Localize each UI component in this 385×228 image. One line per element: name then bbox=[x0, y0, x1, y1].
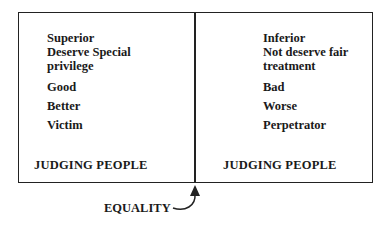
equality-label: EQUALITY bbox=[104, 201, 171, 216]
curved-arrow-icon bbox=[0, 0, 385, 228]
